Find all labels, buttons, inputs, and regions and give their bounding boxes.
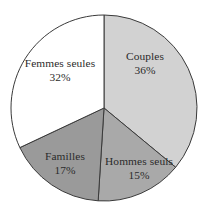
pie-chart: Couples 36% Hommes seuls 15% Familles 17… (0, 0, 205, 214)
pie-slice-group (11, 15, 197, 201)
pie-svg (0, 0, 205, 214)
